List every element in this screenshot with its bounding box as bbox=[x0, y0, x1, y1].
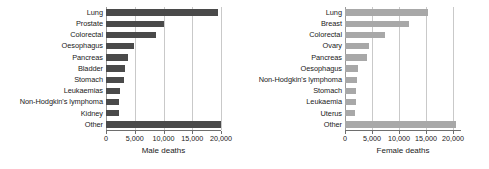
category-label: Leukaemia bbox=[245, 98, 345, 105]
bar-track bbox=[345, 108, 461, 119]
bar-track bbox=[345, 29, 461, 40]
category-label: Stomach bbox=[245, 87, 345, 94]
category-label: Other bbox=[0, 121, 106, 128]
bar-track bbox=[106, 63, 221, 74]
chart-bar-row: Leukaemias bbox=[0, 85, 245, 96]
category-label: Bladder bbox=[0, 65, 106, 72]
chart-bar-row: Stomach bbox=[0, 74, 245, 85]
chart-bar-row: Colorectal bbox=[0, 29, 245, 40]
chart-bar-row: Non-Hodgkin's lymphoma bbox=[245, 74, 489, 85]
data-bar bbox=[106, 110, 119, 116]
chart-bar-row: Pancreas bbox=[0, 52, 245, 63]
chart-bar-row: Breast bbox=[245, 18, 489, 29]
category-label: Non-Hodgkin's lymphoma bbox=[0, 98, 106, 105]
bar-track bbox=[345, 7, 461, 18]
data-bar bbox=[106, 88, 120, 94]
bar-track bbox=[345, 63, 461, 74]
data-bar bbox=[345, 110, 355, 116]
chart-bar-row: Other bbox=[0, 119, 245, 130]
bar-track bbox=[106, 85, 221, 96]
data-bar bbox=[345, 88, 356, 94]
data-bar bbox=[106, 9, 218, 15]
chart-bar-row: Non-Hodgkin's lymphoma bbox=[0, 97, 245, 108]
category-label: Breast bbox=[245, 20, 345, 27]
category-label: Pancreas bbox=[245, 54, 345, 61]
bar-track bbox=[345, 18, 461, 29]
bar-track bbox=[345, 119, 461, 130]
chart-bar-row: Kidney bbox=[0, 108, 245, 119]
female-chart-bar-rows: LungBreastColorectalOvaryPancreasOesopha… bbox=[245, 7, 489, 130]
category-label: Kidney bbox=[0, 110, 106, 117]
data-bar bbox=[106, 32, 156, 38]
x-tick-label: 5,000 bbox=[363, 135, 381, 142]
category-label: Lung bbox=[0, 9, 106, 16]
category-label: Leukaemias bbox=[0, 87, 106, 94]
category-label: Oesophagus bbox=[245, 65, 345, 72]
bar-track bbox=[106, 7, 221, 18]
bar-track bbox=[345, 85, 461, 96]
category-label: Ovary bbox=[245, 42, 345, 49]
bar-track bbox=[106, 97, 221, 108]
chart-bar-row: Lung bbox=[245, 7, 489, 18]
data-bar bbox=[106, 54, 128, 60]
bar-track bbox=[106, 41, 221, 52]
chart-bar-row: Oesophagus bbox=[245, 63, 489, 74]
data-bar bbox=[345, 32, 385, 38]
x-tick-label: 15,000 bbox=[181, 135, 203, 142]
category-label: Prostate bbox=[0, 20, 106, 27]
data-bar bbox=[106, 65, 125, 71]
bar-track bbox=[345, 74, 461, 85]
x-tick-label: 0 bbox=[104, 135, 108, 142]
data-bar bbox=[106, 43, 134, 49]
data-bar bbox=[345, 21, 409, 27]
data-bar bbox=[106, 121, 221, 127]
chart-bar-row: Prostate bbox=[0, 18, 245, 29]
data-bar bbox=[106, 21, 164, 27]
data-bar bbox=[345, 54, 367, 60]
bar-track bbox=[106, 74, 221, 85]
x-tick-label: 15,000 bbox=[415, 135, 437, 142]
bar-track bbox=[106, 119, 221, 130]
chart-bar-row: Bladder bbox=[0, 63, 245, 74]
x-tick-label: 0 bbox=[343, 135, 347, 142]
bar-track bbox=[106, 18, 221, 29]
bar-track bbox=[106, 52, 221, 63]
data-bar bbox=[345, 43, 369, 49]
cancer-deaths-figure: LungProstateColorectalOesophagusPancreas… bbox=[0, 0, 489, 169]
female-chart-x-axis-line bbox=[345, 130, 461, 131]
category-label: Colorectal bbox=[245, 31, 345, 38]
chart-bar-row: Lung bbox=[0, 7, 245, 18]
bar-track bbox=[345, 41, 461, 52]
x-tick-label: 20,000 bbox=[442, 135, 464, 142]
bar-track bbox=[106, 108, 221, 119]
bar-track bbox=[345, 52, 461, 63]
x-tick-label: 10,000 bbox=[388, 135, 410, 142]
data-bar bbox=[345, 77, 357, 83]
male-chart-x-axis-title: Male deaths bbox=[142, 147, 186, 155]
chart-bar-row: Ovary bbox=[245, 41, 489, 52]
female-chart-x-axis-title: Female deaths bbox=[377, 147, 430, 155]
data-bar bbox=[345, 99, 356, 105]
chart-bar-row: Other bbox=[245, 119, 489, 130]
chart-bar-row: Uterus bbox=[245, 108, 489, 119]
category-label: Other bbox=[245, 121, 345, 128]
category-label: Lung bbox=[245, 9, 345, 16]
female-deaths-chart-panel: LungBreastColorectalOvaryPancreasOesopha… bbox=[245, 0, 489, 169]
chart-bar-row: Stomach bbox=[245, 85, 489, 96]
category-label: Stomach bbox=[0, 76, 106, 83]
x-tick-label: 20,000 bbox=[210, 135, 232, 142]
category-label: Pancreas bbox=[0, 54, 106, 61]
chart-bar-row: Colorectal bbox=[245, 29, 489, 40]
category-label: Oesophagus bbox=[0, 42, 106, 49]
data-bar bbox=[106, 77, 124, 83]
chart-bar-row: Pancreas bbox=[245, 52, 489, 63]
x-tick-label: 5,000 bbox=[126, 135, 144, 142]
male-chart-bar-rows: LungProstateColorectalOesophagusPancreas… bbox=[0, 7, 245, 130]
category-label: Colorectal bbox=[0, 31, 106, 38]
data-bar bbox=[345, 65, 358, 71]
category-label: Non-Hodgkin's lymphoma bbox=[245, 76, 345, 83]
category-label: Uterus bbox=[245, 110, 345, 117]
x-tick-label: 10,000 bbox=[153, 135, 175, 142]
data-bar bbox=[345, 121, 456, 127]
chart-bar-row: Oesophagus bbox=[0, 41, 245, 52]
